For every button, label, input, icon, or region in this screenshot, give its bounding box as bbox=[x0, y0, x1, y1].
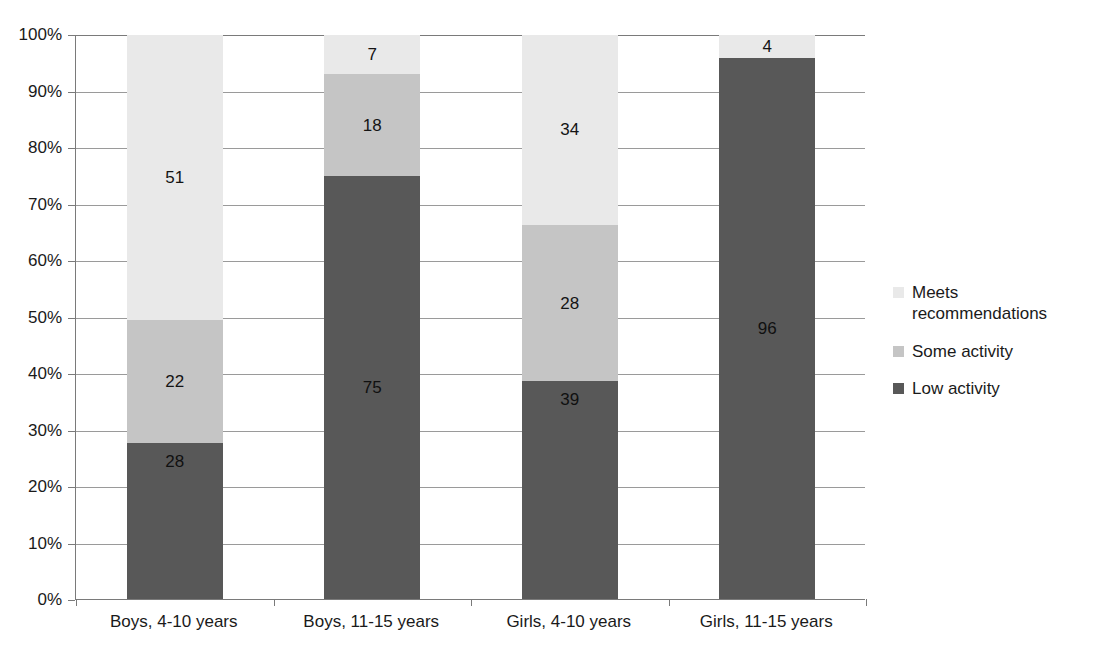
legend-item-meets-recommendations[interactable]: Meets recommendations bbox=[893, 282, 1093, 325]
segment-low-activity[interactable]: 28 bbox=[127, 443, 223, 599]
y-tick-mark bbox=[68, 544, 75, 545]
x-tick-mark bbox=[274, 599, 275, 606]
segment-value-label: 28 bbox=[165, 453, 184, 470]
y-tick-mark bbox=[68, 487, 75, 488]
segment-value-label: 34 bbox=[560, 121, 579, 138]
segment-meets-recommendations[interactable]: 7 bbox=[324, 35, 420, 74]
x-tick-mark bbox=[76, 599, 77, 606]
segment-low-activity[interactable]: 75 bbox=[324, 176, 420, 599]
segment-value-label: 7 bbox=[368, 46, 377, 63]
segment-low-activity[interactable]: 39 bbox=[522, 381, 618, 599]
segment-some-activity[interactable]: 22 bbox=[127, 320, 223, 443]
legend-swatch-icon bbox=[893, 287, 904, 298]
legend: Meets recommendations Some activity Low … bbox=[893, 282, 1093, 415]
segment-some-activity[interactable]: 18 bbox=[324, 74, 420, 176]
legend-item-low-activity[interactable]: Low activity bbox=[893, 378, 1093, 399]
y-tick-mark bbox=[68, 374, 75, 375]
y-tick-label: 90% bbox=[0, 82, 62, 102]
segment-value-label: 75 bbox=[363, 379, 382, 396]
bar-group-girls-11-15: 96 4 bbox=[669, 35, 867, 599]
segment-value-label: 22 bbox=[165, 373, 184, 390]
plot-area: 28 22 51 75 18 7 bbox=[75, 35, 865, 600]
legend-swatch-icon bbox=[893, 346, 904, 357]
y-tick-label: 80% bbox=[0, 138, 62, 158]
legend-item-some-activity[interactable]: Some activity bbox=[893, 341, 1093, 362]
stacked-bar[interactable]: 39 28 34 bbox=[522, 35, 618, 599]
y-tick-mark bbox=[68, 92, 75, 93]
y-tick-mark bbox=[68, 431, 75, 432]
segment-low-activity[interactable]: 96 bbox=[719, 58, 815, 599]
segment-value-label: 28 bbox=[560, 295, 579, 312]
legend-label: Meets recommendations bbox=[912, 282, 1077, 325]
x-tick-label: Girls, 11-15 years bbox=[668, 612, 866, 632]
y-tick-mark bbox=[68, 205, 75, 206]
segment-meets-recommendations[interactable]: 34 bbox=[522, 35, 618, 225]
x-tick-mark bbox=[471, 599, 472, 606]
legend-swatch-icon bbox=[893, 383, 904, 394]
bar-group-boys-11-15: 75 18 7 bbox=[274, 35, 472, 599]
segment-value-label: 18 bbox=[363, 117, 382, 134]
y-tick-mark bbox=[68, 318, 75, 319]
stacked-bar[interactable]: 96 4 bbox=[719, 35, 815, 599]
bar-group-boys-4-10: 28 22 51 bbox=[76, 35, 274, 599]
y-tick-label: 10% bbox=[0, 534, 62, 554]
y-tick-label: 60% bbox=[0, 251, 62, 271]
y-tick-label: 40% bbox=[0, 364, 62, 384]
x-tick-label: Girls, 4-10 years bbox=[470, 612, 668, 632]
y-tick-label: 20% bbox=[0, 477, 62, 497]
y-tick-label: 100% bbox=[0, 25, 62, 45]
segment-value-label: 96 bbox=[758, 320, 777, 337]
segment-meets-recommendations[interactable]: 4 bbox=[719, 35, 815, 58]
y-tick-mark bbox=[68, 148, 75, 149]
legend-label: Some activity bbox=[912, 341, 1013, 362]
segment-value-label: 4 bbox=[763, 38, 772, 55]
x-tick-mark bbox=[866, 599, 867, 606]
y-tick-label: 50% bbox=[0, 308, 62, 328]
y-tick-label: 0% bbox=[0, 590, 62, 610]
segment-some-activity[interactable]: 28 bbox=[522, 225, 618, 381]
stacked-bar[interactable]: 75 18 7 bbox=[324, 35, 420, 599]
x-tick-label: Boys, 4-10 years bbox=[75, 612, 273, 632]
x-tick-label: Boys, 11-15 years bbox=[273, 612, 471, 632]
segment-meets-recommendations[interactable]: 51 bbox=[127, 35, 223, 320]
y-tick-mark bbox=[68, 261, 75, 262]
legend-label: Low activity bbox=[912, 378, 1000, 399]
bar-group-girls-4-10: 39 28 34 bbox=[471, 35, 669, 599]
y-tick-mark bbox=[68, 600, 75, 601]
segment-value-label: 39 bbox=[560, 391, 579, 408]
y-tick-label: 30% bbox=[0, 421, 62, 441]
x-tick-mark bbox=[669, 599, 670, 606]
segment-value-label: 51 bbox=[165, 169, 184, 186]
y-tick-label: 70% bbox=[0, 195, 62, 215]
stacked-bar[interactable]: 28 22 51 bbox=[127, 35, 223, 599]
y-tick-mark bbox=[68, 35, 75, 36]
stacked-bar-chart: 0%10%20%30%40%50%60%70%80%90%100% 28 22 … bbox=[0, 0, 1104, 664]
